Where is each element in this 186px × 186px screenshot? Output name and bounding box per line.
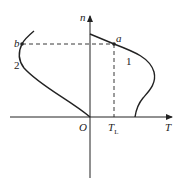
n-T-diagram: n T O TL a b 1 2 (0, 0, 186, 186)
tick-label-TL: TL (108, 121, 118, 136)
point-b-label: b (14, 37, 20, 49)
y-axis-label: n (80, 11, 86, 23)
curve-2-label: 2 (14, 59, 20, 71)
point-b (20, 42, 24, 46)
x-axis-label: T (165, 121, 172, 133)
curve-1-label: 1 (126, 55, 132, 67)
origin-label: O (79, 121, 87, 133)
point-a-label: a (116, 32, 122, 44)
curve-1 (90, 34, 155, 117)
